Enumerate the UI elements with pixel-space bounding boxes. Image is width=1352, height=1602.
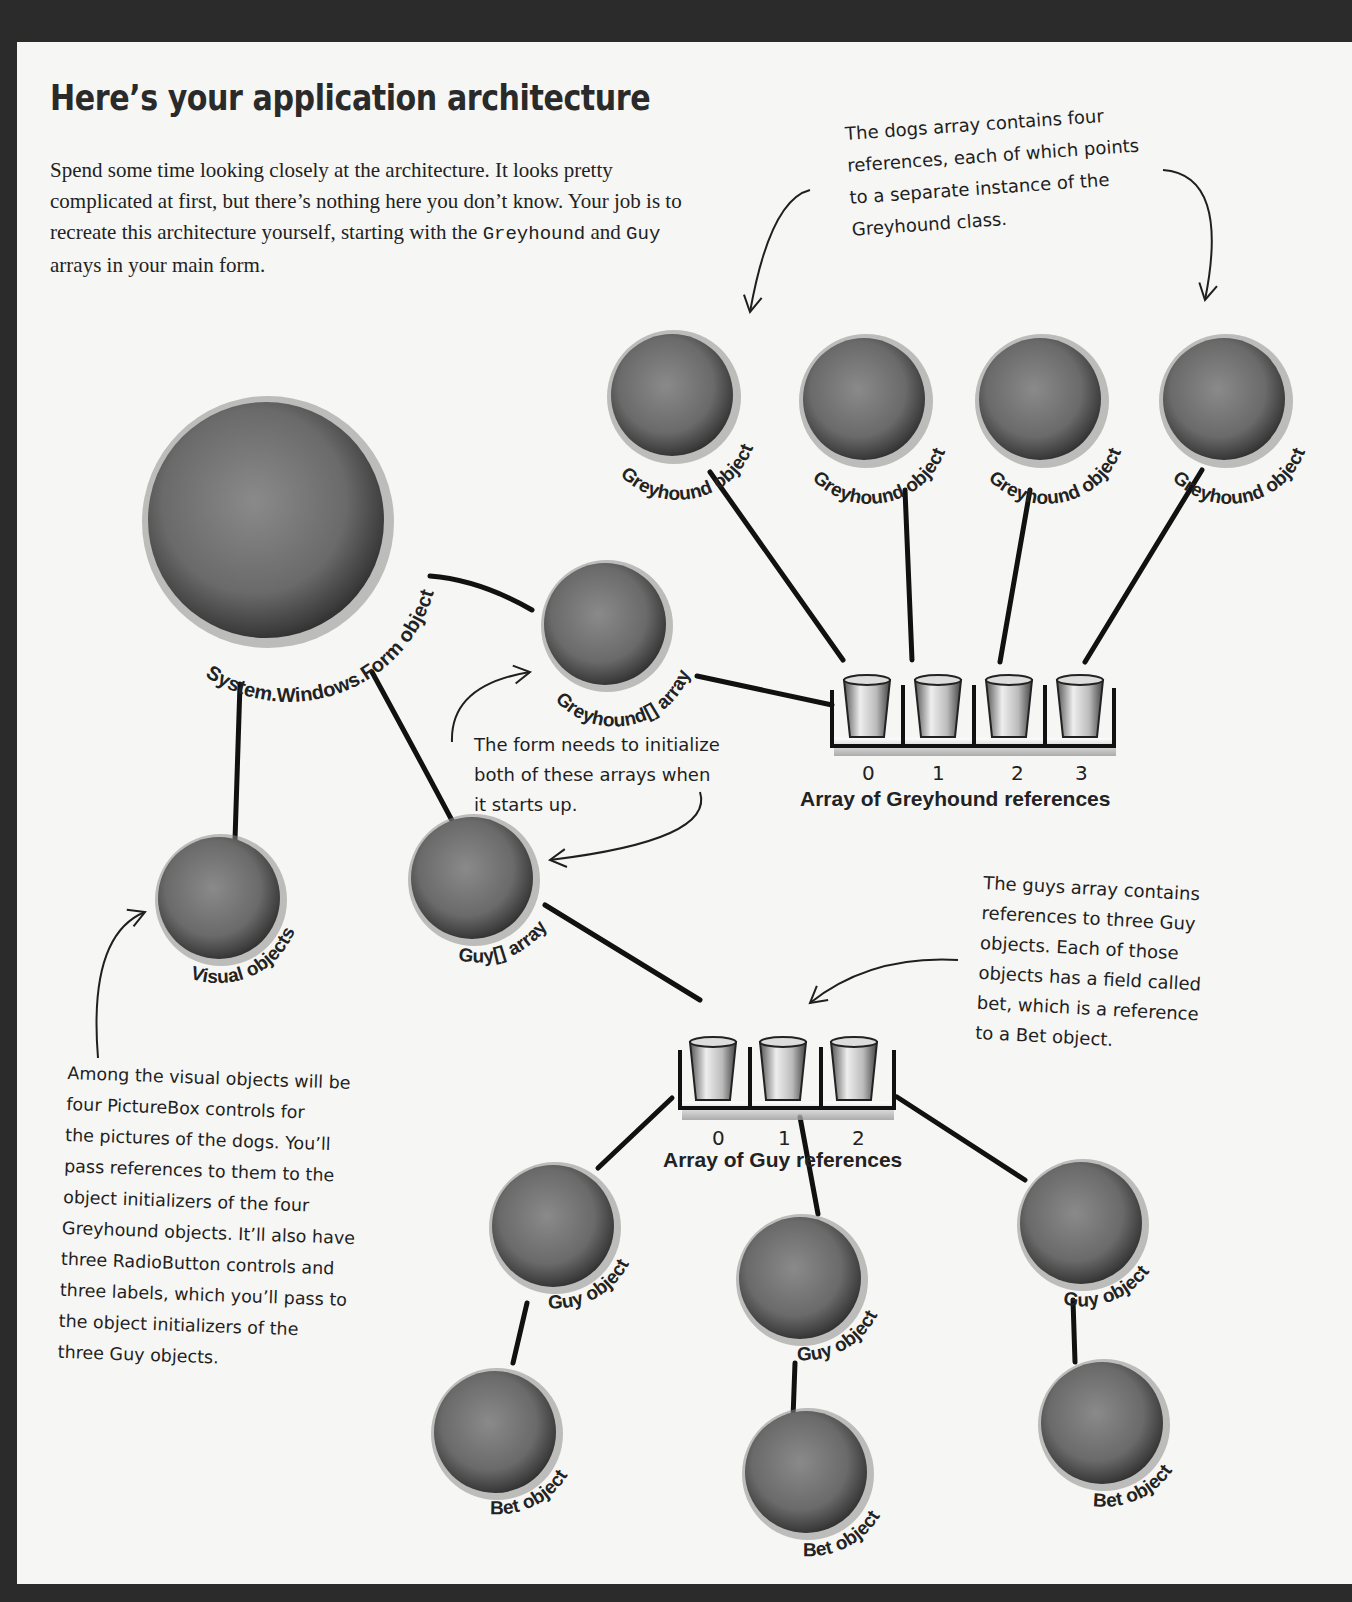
greyhound-object-circle [979, 338, 1101, 460]
form-object-circle [148, 402, 384, 638]
guy-references-array: 0 1 2 Array of Guy references [663, 1037, 902, 1171]
note-dogs-array: The dogs array contains four references,… [844, 98, 1145, 246]
note-guys-array: The guys array contains references to th… [975, 868, 1207, 1059]
greyhound-object-circle [803, 338, 925, 460]
reference-cup-icon [844, 675, 890, 737]
greyhound-object-circle [1163, 338, 1285, 460]
arrow-to-last-greyhound-icon [1163, 170, 1212, 300]
array-index: 2 [852, 1126, 865, 1150]
guy-object-circle [739, 1217, 861, 1339]
note-form-init: The form needs to initialize both of the… [474, 730, 720, 820]
guy-object-circle [492, 1165, 614, 1287]
arrow-to-guy-refs-icon [810, 960, 958, 1003]
reference-cup-icon [690, 1037, 736, 1100]
greyhound-object-circle [611, 334, 733, 456]
array-index: 1 [778, 1126, 791, 1150]
note-visual-objects: Among the visual objects will be four Pi… [57, 1058, 361, 1378]
array-index: 3 [1075, 761, 1088, 785]
reference-cup-icon [1057, 675, 1103, 737]
reference-cup-icon [986, 675, 1032, 737]
guy-object-circle [1020, 1162, 1142, 1284]
note-line: The form needs to initialize [474, 730, 720, 760]
reference-cup-icon [831, 1037, 877, 1100]
array-index: 0 [862, 761, 875, 785]
bet-object-circle [745, 1411, 867, 1533]
greyhound-array-circle [544, 563, 666, 685]
guy-array-circle [411, 817, 533, 939]
array-index: 0 [712, 1126, 725, 1150]
array-index: 2 [1011, 761, 1024, 785]
reference-cup-icon [915, 675, 961, 737]
visual-objects-circle [158, 837, 280, 959]
bet-object-circle [1041, 1362, 1163, 1484]
array-index: 1 [932, 761, 945, 785]
bet-object-circle [434, 1371, 556, 1493]
note-line: it starts up. [474, 790, 720, 820]
reference-cup-icon [760, 1037, 806, 1100]
note-line: both of these arrays when [474, 760, 720, 790]
guy-references-label: Array of Guy references [663, 1148, 902, 1171]
greyhound-references-label: Array of Greyhound references [800, 787, 1110, 810]
arrow-to-visual-objects-icon [97, 912, 145, 1058]
greyhound-references-array: 0 1 2 3 Array of Greyhound references [800, 675, 1116, 810]
arrow-to-first-greyhound-icon [750, 190, 810, 312]
